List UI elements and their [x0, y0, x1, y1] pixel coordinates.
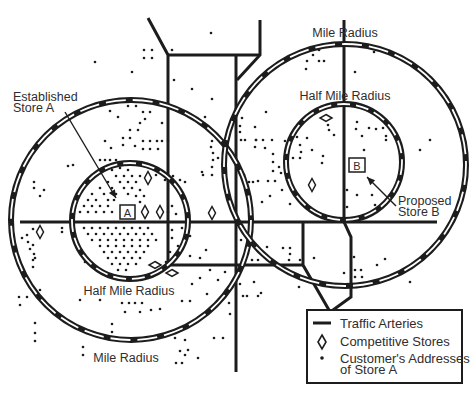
customer-address-dot	[312, 54, 315, 57]
customer-address-dot	[179, 350, 182, 353]
customer-address-dot	[131, 71, 134, 74]
customer-address-dot	[306, 60, 309, 63]
customer-address-dot	[135, 105, 138, 108]
customer-address-dot	[346, 189, 349, 192]
customer-address-dot	[204, 116, 207, 119]
customer-address-dot	[142, 148, 145, 151]
customer-address-dot	[242, 295, 245, 298]
customer-address-dot	[360, 269, 363, 272]
customer-address-dot	[115, 175, 118, 178]
customer-address-dot	[217, 157, 220, 160]
customer-address-dot	[139, 257, 142, 260]
customer-address-dot	[289, 203, 292, 206]
customer-address-dot	[375, 128, 378, 131]
customer-address-dot	[147, 245, 150, 248]
customer-address-dot	[210, 32, 213, 35]
customer-address-dot	[361, 276, 364, 279]
customer-address-dot	[142, 140, 145, 143]
customer-address-dot	[34, 332, 37, 335]
customer-address-dot	[139, 239, 142, 242]
customer-address-dot	[155, 174, 158, 177]
customer-address-dot	[278, 166, 281, 169]
customer-address-dot	[289, 253, 292, 256]
customer-address-dot	[29, 248, 32, 251]
customer-address-dot	[127, 251, 130, 254]
customer-address-dot	[143, 49, 146, 52]
customer-address-dot	[99, 205, 102, 208]
customer-address-dot	[254, 146, 257, 149]
customer-address-dot	[288, 259, 291, 262]
customer-address-dot	[199, 277, 202, 280]
customer-address-dot	[240, 139, 243, 142]
customer-address-dot	[43, 189, 46, 192]
customer-address-dot	[26, 296, 29, 299]
customer-address-dot	[143, 195, 146, 198]
customer-address-dot	[95, 233, 98, 236]
customer-address-dot	[99, 227, 102, 230]
legend-traffic-arteries: Traffic Arteries	[340, 316, 424, 331]
customer-address-dot	[264, 147, 267, 150]
customer-address-dot	[117, 269, 120, 272]
customer-address-dot	[222, 337, 225, 340]
customer-address-dot	[171, 205, 174, 208]
customer-address-dot	[127, 169, 130, 172]
customer-address-dot	[82, 354, 85, 357]
customer-address-dot	[296, 136, 299, 139]
customer-address-dot	[211, 98, 214, 101]
customer-address-dot	[139, 201, 142, 204]
customer-address-dot	[139, 245, 142, 248]
customer-address-dot	[32, 266, 35, 269]
customer-address-dot	[313, 257, 316, 260]
customer-address-dot	[149, 111, 152, 114]
customer-address-dot	[187, 349, 190, 352]
customer-address-dot	[103, 193, 106, 196]
customer-address-dot	[175, 362, 178, 365]
customer-address-dot	[107, 199, 110, 202]
customer-address-dot	[346, 206, 349, 209]
customer-address-dot	[241, 117, 244, 120]
customer-address-dot	[143, 251, 146, 254]
customer-address-dot	[409, 281, 412, 284]
arrowhead-icon	[109, 189, 116, 198]
customer-address-dot	[299, 144, 302, 147]
customer-address-dot	[21, 237, 24, 240]
customer-address-dot	[72, 164, 75, 167]
customer-address-dot	[155, 239, 158, 242]
customer-address-dot	[355, 128, 358, 131]
customer-address-dot	[34, 340, 37, 343]
customer-address-dot	[213, 337, 216, 340]
customer-address-dot	[323, 60, 326, 63]
customer-address-dot	[255, 139, 258, 142]
radius-rings	[11, 44, 466, 340]
store-a-half-mile-radius-label: Half Mile Radius	[83, 284, 174, 298]
customer-address-dot	[34, 322, 37, 325]
customer-address-dot	[197, 357, 200, 360]
customer-address-dot	[173, 79, 176, 82]
customer-address-dot	[147, 239, 150, 242]
customer-address-dot	[119, 263, 122, 266]
customer-address-dot	[95, 199, 98, 202]
customer-address-dot	[61, 231, 64, 234]
customer-address-dot	[149, 148, 152, 151]
competitive-store-diamond-icon	[157, 206, 164, 219]
customer-address-dot	[202, 174, 205, 177]
customer-address-dot	[33, 253, 36, 256]
customer-address-dot	[150, 309, 153, 312]
customer-address-dot	[306, 137, 309, 140]
legend-competitive-stores: Competitive Stores	[340, 334, 450, 349]
customer-address-dot	[139, 311, 142, 314]
customer-address-dot	[18, 296, 21, 299]
customer-address-dot	[209, 269, 212, 272]
customer-address-dot	[257, 259, 260, 262]
customer-address-dot	[161, 122, 164, 125]
customer-address-dot	[129, 137, 132, 140]
customer-address-dot	[184, 181, 187, 184]
customer-address-dot	[282, 247, 285, 250]
customer-address-dot	[189, 255, 192, 258]
customer-address-dot	[87, 233, 90, 236]
customer-address-dot	[128, 302, 131, 305]
customer-address-dot	[111, 251, 114, 254]
customer-address-dot	[292, 157, 295, 160]
store-a-mile-ring	[11, 100, 251, 340]
customer-address-dot	[127, 233, 130, 236]
